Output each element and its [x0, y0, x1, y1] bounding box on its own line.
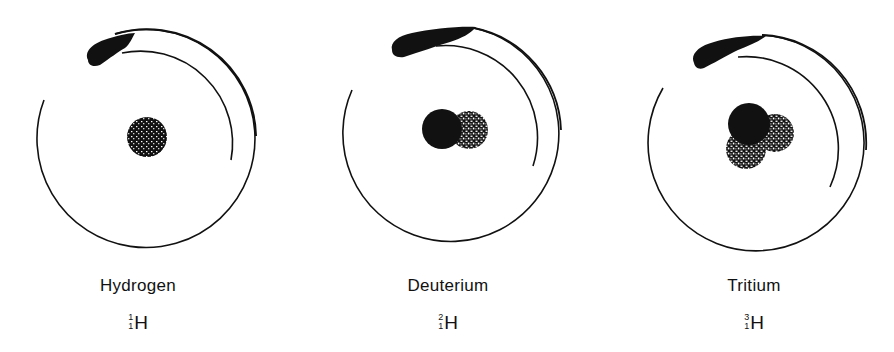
atom-name-label: Hydrogen	[38, 276, 238, 296]
isotope-symbol: 2 1 H	[348, 312, 548, 334]
element-symbol: H	[750, 312, 764, 333]
nuclide-numbers: 2 1	[438, 313, 443, 331]
electron-cloud	[87, 33, 135, 66]
deuterium-atom	[343, 27, 561, 242]
isotope-symbol: 1 1 H	[38, 312, 238, 334]
atomic-number: 1	[744, 322, 749, 331]
electron-cloud	[392, 27, 476, 57]
electron-orbit-inner	[436, 46, 538, 166]
proton	[127, 117, 167, 157]
atom-name-label: Tritium	[654, 276, 854, 296]
proton	[422, 109, 462, 149]
nuclide-numbers: 1 1	[128, 313, 133, 331]
isotope-figure: Hydrogen 1 1 H Deuterium 2 1 H Tritium 3…	[0, 0, 894, 352]
isotope-symbol: 3 1 H	[654, 312, 854, 334]
proton	[728, 103, 770, 145]
nuclide-numbers: 3 1	[744, 313, 749, 331]
electron-cloud	[693, 36, 766, 69]
atomic-number: 1	[438, 322, 443, 331]
atoms-drawing	[0, 0, 894, 352]
atom-name-label: Deuterium	[348, 276, 548, 296]
tritium-atom	[648, 35, 866, 251]
hydrogen-atom	[37, 29, 256, 247]
element-symbol: H	[444, 312, 458, 333]
electron-orbit-top	[115, 29, 256, 136]
atomic-number: 1	[128, 322, 133, 331]
element-symbol: H	[134, 312, 148, 333]
